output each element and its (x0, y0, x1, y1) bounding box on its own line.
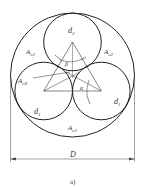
label-D: D (69, 150, 76, 159)
ac0-leader-line (33, 72, 70, 78)
alpha-arc (87, 80, 89, 96)
caption: a) (70, 178, 76, 186)
label-d2: d2 (68, 26, 75, 36)
label-d1-right: d1 (114, 97, 121, 107)
label-ac0: Ac0 (17, 77, 28, 86)
dimension-arrow-right (129, 158, 135, 161)
label-ac2-top-left: Ac2 (25, 48, 36, 57)
label-beta: β (64, 61, 68, 67)
beta-arc (60, 59, 82, 62)
label-ac2-top-right: Ac2 (103, 48, 114, 57)
beta-arrow-left (55, 55, 61, 60)
label-d1-left: d1 (34, 107, 41, 117)
diagram-canvas: d2 Ac2 Ac2 Ac0 d1 d1 Ac2 β α D a) (0, 0, 149, 187)
label-ac2-bottom: Ac2 (67, 124, 78, 133)
alpha-arrow (87, 96, 90, 104)
dimension-arrow-left (11, 158, 17, 161)
label-alpha: α (80, 85, 84, 91)
